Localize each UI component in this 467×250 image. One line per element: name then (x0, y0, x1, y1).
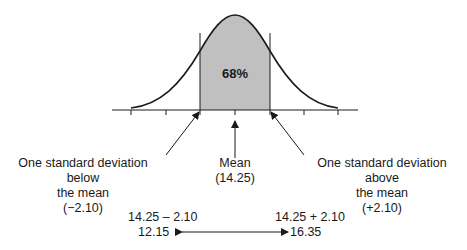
upper-bound-expression: 14.25 + 2.10 (275, 210, 345, 225)
axis-ticks (131, 110, 338, 115)
upper-bound-value: 16.35 (290, 225, 321, 240)
mean-label: Mean (14.25) (205, 156, 265, 186)
below-pointer-arrow (166, 112, 199, 155)
above-pointer-arrow (271, 112, 304, 155)
lower-bound-expression: 14.25 – 2.10 (128, 210, 198, 225)
above-mean-label: One standard deviation above the mean (+… (302, 156, 462, 216)
percent-label: 68% (222, 66, 248, 81)
shaded-area (200, 15, 270, 110)
below-mean-label: One standard deviation below the mean (−… (8, 156, 158, 216)
lower-bound-value: 12.15 (138, 225, 169, 240)
